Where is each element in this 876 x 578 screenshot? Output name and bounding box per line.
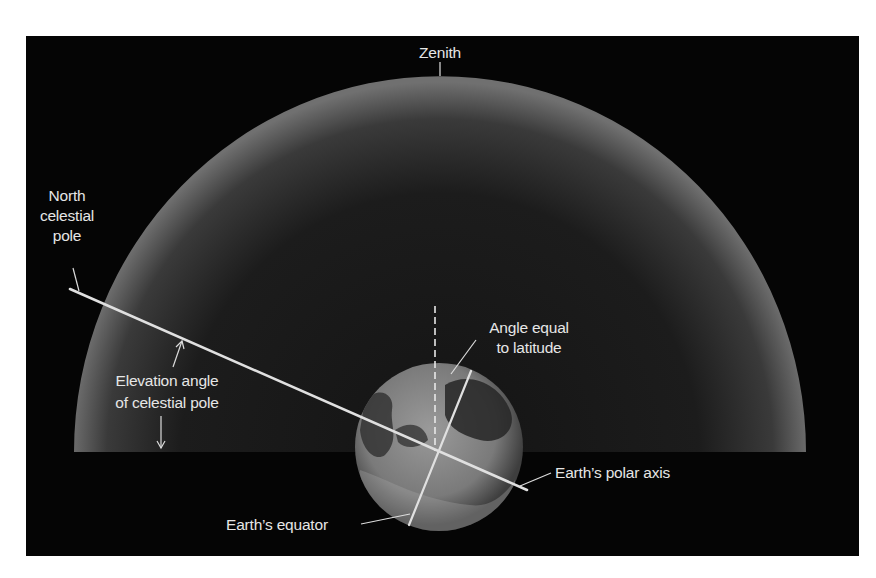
polar-axis-leader xyxy=(520,473,551,486)
equator-label: Earth’s equator xyxy=(226,515,328,534)
pole-leader xyxy=(73,268,79,291)
polar-axis-label: Earth’s polar axis xyxy=(555,463,670,482)
north-celestial-pole-label: North celestial pole xyxy=(22,186,112,246)
zenith-label: Zenith xyxy=(400,43,480,62)
angle-latitude-label: Angle equal to latitude xyxy=(474,318,584,358)
celestial-pole-diagram xyxy=(0,0,876,578)
elevation-angle-label: Elevation angle of celestial pole xyxy=(92,370,242,414)
